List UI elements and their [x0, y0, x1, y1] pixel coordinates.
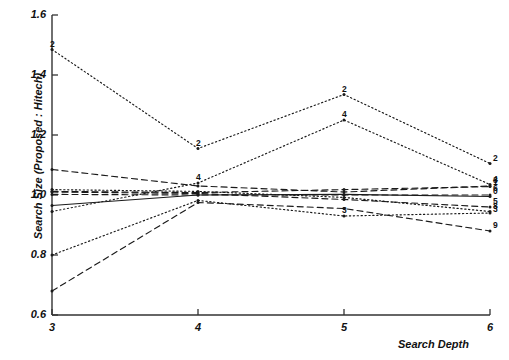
series-line-3: [52, 170, 490, 193]
data-point: [197, 190, 200, 193]
data-point: [51, 168, 54, 171]
data-point-markers: [51, 48, 492, 293]
y-tick-label: 0.8: [16, 248, 46, 260]
data-point: [51, 290, 54, 293]
plot-area: [0, 0, 509, 360]
y-tick-label: 1.4: [16, 68, 46, 80]
y-tick-label: 0.6: [16, 308, 46, 320]
x-tick-label: 3: [42, 321, 62, 333]
point-label-2: 2: [493, 154, 498, 162]
point-label-4: 4: [342, 110, 347, 118]
point-label-7: 3: [493, 205, 498, 213]
data-point: [489, 185, 492, 188]
data-point: [51, 254, 54, 257]
data-point: [343, 188, 346, 191]
data-point: [489, 212, 492, 215]
data-point: [197, 185, 200, 188]
point-label-2: 2: [196, 139, 201, 147]
point-label-2: 2: [50, 40, 55, 48]
x-tick-label: 4: [188, 321, 208, 333]
data-point: [489, 206, 492, 209]
y-tick-label: 1.6: [16, 8, 46, 20]
series-line-1: [52, 187, 490, 193]
axes: [52, 15, 490, 315]
y-tick-label: 1.0: [16, 188, 46, 200]
series-line-7: [52, 200, 490, 255]
point-label-0: 0: [493, 187, 498, 195]
data-point: [197, 201, 200, 204]
point-label-7: 3: [342, 206, 347, 214]
point-label-2: 2: [342, 85, 347, 93]
x-axis-ticks: [52, 309, 490, 315]
chart-figure: Search Size (Proposed : Hitech) Search D…: [0, 0, 509, 360]
series-line-2: [52, 50, 490, 164]
x-tick-label: 6: [480, 321, 500, 333]
data-point: [489, 230, 492, 233]
data-point: [51, 210, 54, 213]
y-axis-ticks: [52, 15, 58, 315]
series-line-4: [52, 120, 490, 212]
x-tick-label: 5: [334, 321, 354, 333]
y-tick-label: 1.2: [16, 128, 46, 140]
data-point: [489, 162, 492, 165]
data-point: [51, 188, 54, 191]
data-point: [489, 194, 492, 197]
series-line-9: [52, 203, 490, 292]
data-series-group: [52, 50, 490, 292]
data-point: [343, 196, 346, 199]
data-point: [51, 204, 54, 207]
point-label-4: 4: [196, 173, 201, 181]
point-label-9: 9: [493, 221, 498, 229]
x-axis-title: Search Depth: [398, 338, 469, 350]
